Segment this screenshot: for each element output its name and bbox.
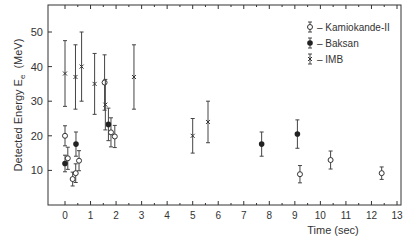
y-tick-label: 10 xyxy=(31,164,43,176)
y-tick-label: 30 xyxy=(31,95,43,107)
x-tick-label: 12 xyxy=(366,210,378,221)
x-tick-label: 2 xyxy=(113,210,119,221)
legend-label: – Kamiokande-II xyxy=(317,22,390,33)
legend-label: – Baksan xyxy=(317,38,359,49)
y-tick-label: 40 xyxy=(31,61,43,73)
x-tick-label: 11 xyxy=(341,210,352,221)
x-tick-label: 7 xyxy=(241,210,247,221)
y-axis-label: Detected Energy Ee(MeV) xyxy=(12,39,27,172)
legend-label: – IMB xyxy=(317,54,343,65)
x-tick-label: 9 xyxy=(292,210,298,221)
y-tick-label: 50 xyxy=(31,26,43,38)
x-tick-label: 13 xyxy=(391,210,403,221)
y-tick-label: 20 xyxy=(31,130,43,142)
x-tick-label: 4 xyxy=(164,210,170,221)
x-tick-label: 3 xyxy=(139,210,145,221)
y-axis: 1020304050 xyxy=(31,26,52,176)
x-tick-label: 1 xyxy=(88,210,94,221)
plot-frame xyxy=(48,5,401,205)
legend: – Kamiokande-II– Baksan– IMB xyxy=(307,22,390,65)
x-tick-label: 10 xyxy=(315,210,327,221)
x-tick-label: 8 xyxy=(267,210,273,221)
x-tick-label: 6 xyxy=(215,210,221,221)
x-tick-label: 0 xyxy=(62,210,68,221)
x-tick-label: 5 xyxy=(190,210,196,221)
x-axis-label: Time (sec) xyxy=(307,224,359,236)
scatter-chart: 012345678910111213 1020304050 – Kamiokan… xyxy=(0,0,413,247)
